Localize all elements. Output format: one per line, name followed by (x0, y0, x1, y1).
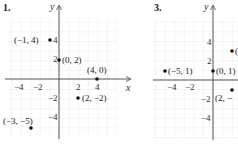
graph-1-tick-y-4: 4 (53, 35, 58, 45)
graph-1-point-2-neg2 (76, 96, 80, 100)
graph-3-grid (153, 20, 238, 138)
graph-1-point-label-3: (4, 0) (87, 65, 107, 75)
graph-3-point-label-4: (2, − (215, 93, 232, 103)
graph-1: 1. y x −4 −2 2 4 4 2 −2 −4 (−1, 4) (0, 2… (3, 1, 131, 139)
graph-3-point-label-2: (0, 1) (216, 66, 236, 76)
graph-1-point-neg1-4 (48, 38, 52, 42)
graph-3-tick-y-neg4: −4 (201, 113, 211, 123)
graph-1-tick-x-neg4: −4 (14, 82, 24, 92)
graph-1-tick-x-4: 4 (95, 82, 100, 92)
graph-3-tick-y-4: 4 (207, 37, 212, 47)
graph-3-tick-y-neg2: −2 (201, 94, 211, 104)
graph-1-tick-y-neg4: −4 (48, 112, 58, 122)
graph-1-point-neg3-neg5 (29, 126, 33, 130)
graph-1-x-label: x (125, 82, 131, 93)
graph-3-tick-x-neg2: −2 (185, 82, 195, 92)
graph-1-point-label-2: (0, 2) (62, 55, 82, 65)
graph-1-tick-x-2: 2 (76, 82, 81, 92)
graph-1-title: 1. (3, 2, 11, 13)
graph-1-y-label: y (49, 1, 55, 12)
graph-1-tick-y-neg2: −2 (48, 93, 58, 103)
graph-3-point-2-3 (230, 49, 234, 53)
graph-3-point-2-neg2 (230, 88, 234, 92)
graph-3-title: 3. (154, 2, 162, 13)
graph-3-point-neg5-1 (163, 69, 167, 73)
graph-1-point-label-4: (2, −2) (82, 93, 107, 103)
graph-3: 3. y −4 −2 4 2 −2 −4 (−5, 1) (0, 1) ( (2… (153, 1, 238, 140)
graph-3-point-label-1: (−5, 1) (168, 66, 193, 76)
graphs-canvas: 1. y x −4 −2 2 4 4 2 −2 −4 (−1, 4) (0, 2… (0, 0, 238, 144)
graph-1-point-4-0 (95, 77, 99, 81)
graph-1-point-label-5: (−3, −5) (3, 116, 33, 126)
graph-3-tick-y-2: 2 (207, 56, 212, 66)
graph-1-tick-x-neg2: −2 (33, 82, 43, 92)
graph-3-point-0-1 (211, 69, 215, 73)
graph-3-tick-x-neg4: −4 (167, 82, 177, 92)
graph-1-point-label-1: (−1, 4) (14, 35, 39, 45)
graph-3-point-label-3: ( (235, 46, 238, 56)
graph-3-y-label: y (203, 1, 209, 12)
graph-1-point-0-2 (57, 58, 61, 62)
graph-1-tick-y-2: 2 (53, 54, 58, 64)
